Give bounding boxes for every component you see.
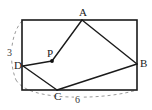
segment-C-B xyxy=(57,64,137,90)
measure-label-3: 3 xyxy=(6,48,13,58)
measure-label-6: 6 xyxy=(74,95,81,105)
vertex-label-d: D xyxy=(14,60,22,71)
point-marker-group xyxy=(50,59,54,63)
geometry-figure: ABCDP 36 xyxy=(0,0,152,110)
dashed-arc-group xyxy=(11,21,137,97)
vertex-label-p: P xyxy=(47,48,53,59)
segment-group xyxy=(23,20,137,90)
left-arc xyxy=(11,21,22,80)
segment-P-D xyxy=(23,61,52,66)
segment-A-B xyxy=(82,20,137,64)
vertex-label-c: C xyxy=(54,91,61,102)
point-marker-p xyxy=(50,59,54,63)
bounding-rectangle xyxy=(22,20,137,90)
segment-A-P xyxy=(52,20,82,61)
vertex-label-b: B xyxy=(140,58,147,69)
vertex-label-a: A xyxy=(79,7,87,18)
segment-D-C xyxy=(23,66,57,90)
